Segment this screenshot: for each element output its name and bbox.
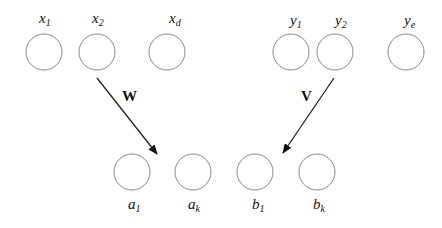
label-ye: ye: [402, 12, 416, 30]
label-bk: bk: [313, 196, 326, 214]
node-a1: [114, 154, 150, 190]
matrix-label-v: V: [301, 88, 312, 104]
label-ak: ak: [188, 196, 201, 214]
node-y2: [317, 34, 353, 70]
label-x1: x1: [38, 10, 51, 28]
node-b1: [237, 154, 273, 190]
node-bk: [299, 154, 335, 190]
node-y1: [273, 34, 309, 70]
label-x2: x2: [91, 10, 104, 28]
matrix-label-w: W: [122, 88, 137, 104]
diagram-canvas: W V x1 x2 xd y1 y2 ye a1 ak b1 bk: [0, 0, 442, 228]
label-y1: y1: [288, 12, 302, 30]
label-xd: xd: [168, 10, 182, 28]
node-xd: [149, 34, 185, 70]
node-x2: [79, 34, 115, 70]
node-ak: [175, 154, 211, 190]
label-y2: y2: [333, 12, 347, 30]
label-b1: b1: [252, 196, 265, 214]
node-x1: [26, 34, 62, 70]
label-a1: a1: [128, 196, 141, 214]
node-ye: [388, 34, 424, 70]
